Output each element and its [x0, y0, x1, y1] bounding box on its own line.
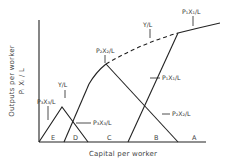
envelope-solid-lower	[89, 64, 106, 84]
y-axis-sublabel: Pᵢ Xᵢ / L	[18, 68, 26, 94]
region-b: B	[154, 134, 158, 142]
region-d: D	[73, 134, 78, 142]
p3x3-left-curve	[39, 107, 88, 142]
yl-upper-label: Y/L	[142, 21, 153, 28]
p1x1-side-label: P₁X₁/L	[162, 74, 181, 81]
p3x3-left-label: P₃X₃/L	[37, 98, 56, 105]
region-a: A	[192, 134, 197, 142]
region-e: E	[51, 134, 55, 142]
y-axis-label: Outputs per worker	[8, 45, 16, 117]
p1x1-curve	[128, 33, 178, 142]
p2x2-top-label: P₂X₂/L	[96, 47, 115, 54]
diagram-container: Outputs per worker Pᵢ Xᵢ / L Capital per…	[0, 0, 233, 162]
region-c: C	[107, 134, 112, 142]
p1x1-top-label: P₁X₁/L	[182, 8, 201, 15]
envelope-solid-upper	[178, 23, 220, 33]
p2x2-side-label: P₂X₂/L	[172, 110, 191, 117]
production-diagram: Outputs per worker Pᵢ Xᵢ / L Capital per…	[0, 0, 233, 162]
p3x3-right-label: P₃X₃/L	[93, 119, 112, 126]
yl-lower-label: Y/L	[57, 81, 68, 88]
envelope-dashed	[106, 33, 178, 64]
x-axis-label: Capital per worker	[89, 150, 157, 158]
